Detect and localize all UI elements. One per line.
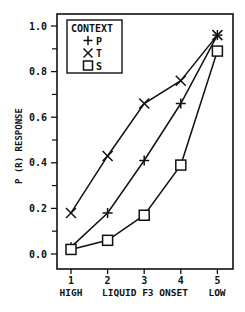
square-marker-icon: [84, 61, 93, 70]
data-point-x-marker-icon: [176, 76, 186, 86]
x-axis-label-left: HIGH: [60, 287, 83, 298]
series-s: [66, 46, 222, 254]
y-tick-label: 0.0: [29, 249, 47, 260]
line-chart: 0.00.20.40.60.81.0 12345 CONTEXT PTS P (…: [0, 0, 245, 312]
x-axis: 12345: [68, 269, 220, 286]
data-point-square-marker-icon: [176, 160, 186, 170]
data-point-x-marker-icon: [103, 151, 113, 161]
x-axis-label-center: LIQUID F3 ONSET: [102, 287, 188, 298]
x-axis-label-right: LOW: [208, 287, 225, 298]
data-point-square-marker-icon: [212, 46, 222, 56]
legend-item-label: T: [96, 48, 102, 59]
data-point-square-marker-icon: [66, 244, 76, 254]
legend: CONTEXT PTS: [67, 20, 122, 73]
data-point-square-marker-icon: [103, 235, 113, 245]
data-point-x-marker-icon: [139, 99, 149, 109]
y-tick-label: 1.0: [29, 21, 47, 32]
x-tick-label: 1: [68, 275, 74, 286]
data-point-x-marker-icon: [66, 208, 76, 218]
legend-item-s: S: [84, 61, 103, 72]
x-tick-label: 2: [105, 275, 111, 286]
y-tick-label: 0.8: [29, 66, 47, 77]
y-tick-label: 0.6: [29, 112, 47, 123]
data-point-plus-marker-icon: [176, 99, 186, 109]
x-tick-label: 4: [178, 275, 184, 286]
y-tick-label: 0.2: [29, 203, 47, 214]
data-point-square-marker-icon: [139, 210, 149, 220]
legend-item-label: S: [96, 61, 102, 72]
y-axis-label: P (R) RESPONSE: [14, 108, 24, 184]
y-axis: 0.00.20.40.60.81.0: [29, 21, 57, 260]
x-tick-label: 3: [141, 275, 147, 286]
x-tick-label: 5: [214, 275, 220, 286]
y-tick-label: 0.4: [29, 157, 47, 168]
data-point-plus-marker-icon: [139, 156, 149, 166]
legend-item-label: P: [96, 36, 102, 47]
legend-title: CONTEXT: [71, 23, 113, 34]
